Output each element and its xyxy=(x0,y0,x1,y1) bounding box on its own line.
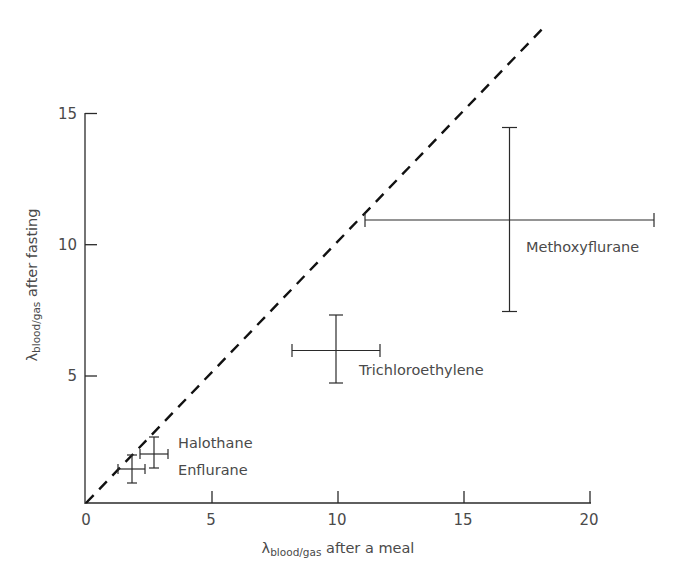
y-tick-label: 10 xyxy=(58,236,77,254)
y-axis-title: λblood/gas after fasting xyxy=(24,209,42,362)
x-axis-title: λblood/gas after a meal xyxy=(262,540,415,558)
chart: 0 5 10 15 20 5 10 15 λblood/gas after a … xyxy=(0,0,674,580)
error-bars xyxy=(118,128,654,484)
x-axis-title-subscript: blood/gas xyxy=(270,546,321,558)
y-tick-label: 5 xyxy=(67,367,77,385)
point-enflurane xyxy=(118,455,145,483)
y-tick-labels: 5 10 15 xyxy=(58,105,77,385)
x-tick-label: 20 xyxy=(579,511,598,529)
label-halothane: Halothane xyxy=(178,435,253,451)
x-tick-label: 15 xyxy=(453,511,472,529)
y-axis-title-subscript: blood/gas xyxy=(30,302,42,353)
label-enflurane: Enflurane xyxy=(178,462,248,478)
x-axis-title-text: after a meal xyxy=(321,540,414,556)
label-trichloroethylene: Trichloroethylene xyxy=(358,362,484,378)
x-tick-label: 10 xyxy=(327,511,346,529)
x-tick-label: 5 xyxy=(206,511,216,529)
x-tick-labels: 0 5 10 15 20 xyxy=(81,511,598,529)
x-tick-label: 0 xyxy=(81,511,91,529)
y-axis-title-text: after fasting xyxy=(24,209,40,302)
label-methoxyflurane: Methoxyflurane xyxy=(526,239,639,255)
identity-dashed-line xyxy=(86,24,547,503)
axes xyxy=(85,113,591,504)
point-methoxyflurane xyxy=(365,128,654,312)
y-tick-label: 15 xyxy=(58,105,77,123)
